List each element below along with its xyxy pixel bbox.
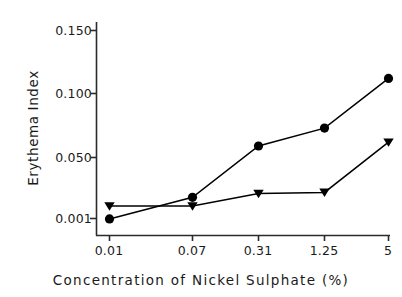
data-point-circle — [320, 124, 329, 133]
chart-figure: Erythema Index Concentration of Nickel S… — [0, 0, 402, 297]
data-point-circle — [105, 214, 114, 223]
y-tick-marks — [90, 31, 96, 219]
series-line-triangle-down — [110, 142, 389, 206]
data-series-layer — [104, 74, 393, 224]
plot-area — [0, 0, 402, 297]
data-point-circle — [384, 74, 393, 83]
data-point-circle — [188, 193, 197, 202]
data-point-circle — [254, 141, 263, 150]
series-line-circle — [110, 78, 389, 219]
